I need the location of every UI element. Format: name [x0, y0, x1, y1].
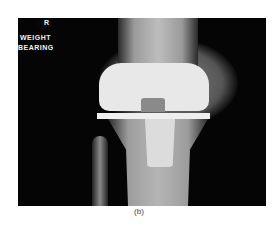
weight-label: WEIGHT — [20, 33, 51, 43]
figure-caption: (b) — [0, 207, 278, 216]
tibial-tray — [97, 113, 210, 119]
bearing-label: BEARING — [18, 43, 54, 53]
side-marker-label: R — [44, 18, 50, 28]
fibula-bone — [92, 136, 108, 206]
tibial-stem — [145, 119, 175, 167]
knee-xray-image: R WEIGHT BEARING — [18, 18, 266, 206]
intercondylar-notch — [141, 98, 165, 112]
